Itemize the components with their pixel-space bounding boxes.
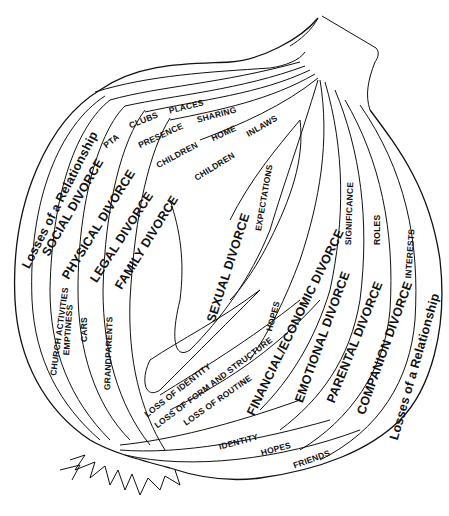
label-cars: CARS [80, 317, 89, 342]
label-roles: ROLES [373, 215, 382, 245]
onion-stem-outline [100, 18, 318, 90]
label-significance: SIGNIFICANCE [344, 182, 355, 246]
